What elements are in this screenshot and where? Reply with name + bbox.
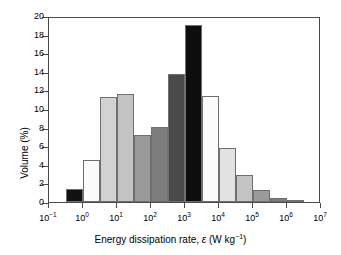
histogram-bar [134,135,151,202]
y-axis-tick-label: 8 [39,124,44,133]
x-axis-tick [286,203,287,208]
y-axis-tick-label: 6 [39,142,44,151]
y-axis-tick-label: 14 [34,68,44,77]
x-axis-unit-exponent: −1 [235,233,243,240]
histogram-bar [202,96,219,202]
y-axis-tick-label: 12 [34,86,44,95]
y-axis-tick-label: 10 [34,105,44,114]
histogram-bar [151,127,168,202]
y-axis-tick-label: 20 [34,12,44,21]
y-axis-tick-label: 4 [39,161,44,170]
y-axis-tick-label: 18 [34,31,44,40]
x-axis-tick [48,203,49,208]
x-axis-title: Energy dissipation rate, ε (W kg−1) [0,231,341,245]
x-axis-tick [82,203,83,208]
plot-area [48,17,320,203]
x-axis-tick [320,203,321,208]
x-axis-unit-close: ) [243,234,246,245]
histogram-bar [270,198,287,202]
y-axis-tick-label: 16 [34,49,44,58]
x-axis-tick [218,203,219,208]
histogram-bar [66,189,83,202]
histogram-bar [185,25,202,202]
x-axis-tick [150,203,151,208]
x-axis-tick [252,203,253,208]
x-axis-tick [116,203,117,208]
histogram-bar [117,94,134,202]
x-axis-tick [184,203,185,208]
histogram-bar [287,200,304,202]
histogram-bar [236,175,253,202]
x-axis-tick-label: 107 [300,210,340,223]
chart-figure: Volume (%) 02468101214161820 10−11001011… [0,0,341,255]
x-axis-title-text: Energy dissipation rate, [95,234,202,245]
histogram-bar [253,190,270,202]
y-axis-title-wrap: Volume (%) [8,60,22,130]
histogram-bar [219,148,236,202]
bar-series [49,18,319,202]
y-axis-tick-label: 2 [39,179,44,188]
histogram-bar [100,97,117,202]
y-axis-tick-label: 0 [39,198,44,207]
histogram-bar [168,74,185,202]
histogram-bar [83,160,100,202]
y-axis-title: Volume (%) [20,98,30,208]
x-axis-unit-open: (W kg [206,234,235,245]
